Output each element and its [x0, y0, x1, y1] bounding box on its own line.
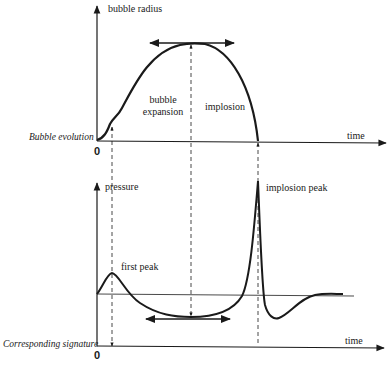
- top-panel: [97, 6, 386, 143]
- pressure-signature-curve: [97, 181, 343, 318]
- top-x-axis: [97, 141, 386, 143]
- implosion-label: implosion: [205, 102, 245, 112]
- connector-lines: [112, 45, 258, 346]
- implosion-peak-label: implosion peak: [266, 183, 327, 193]
- top-y-axis-label: bubble radius: [108, 4, 162, 14]
- top-origin-label: 0: [94, 146, 100, 157]
- expansion-label-line2: expansion: [138, 107, 188, 117]
- expansion-label-line1: bubble: [138, 95, 188, 105]
- bottom-origin-label: 0: [94, 350, 100, 361]
- first-peak-label: first peak: [121, 262, 159, 272]
- bottom-y-axis-label: pressure: [105, 182, 138, 192]
- bubble-radius-curve: [97, 43, 258, 141]
- top-row-label: Bubble evolution: [29, 133, 94, 143]
- bottom-x-axis: [97, 346, 384, 348]
- expansion-label: bubble expansion: [138, 95, 188, 117]
- bottom-row-label: Corresponding signature: [3, 340, 98, 350]
- bubble-diagram: [0, 0, 391, 365]
- bottom-x-axis-label: time: [345, 336, 363, 346]
- top-x-axis-label: time: [347, 131, 365, 141]
